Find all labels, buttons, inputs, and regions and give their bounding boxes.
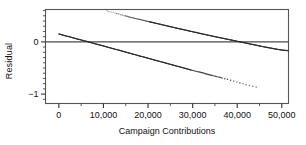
data-series — [58, 10, 289, 88]
data-point — [111, 11, 112, 12]
data-point — [116, 13, 118, 15]
data-point — [108, 11, 109, 12]
y-tick-label: −1 — [28, 89, 38, 99]
data-point — [118, 13, 120, 15]
data-point — [212, 75, 214, 77]
x-axis-title: Campaign Contributions — [45, 126, 289, 136]
x-tick-label: 50,000 — [268, 110, 296, 120]
data-point — [288, 50, 289, 51]
data-point — [109, 11, 110, 12]
x-axis-ticks — [59, 104, 282, 109]
data-point — [120, 14, 122, 16]
data-point — [249, 85, 251, 87]
x-tick-label: 10,000 — [90, 110, 118, 120]
data-point — [215, 75, 217, 77]
data-point — [216, 76, 218, 78]
y-axis-title: Residual — [2, 24, 16, 98]
data-point — [213, 75, 215, 77]
data-point — [255, 86, 257, 88]
y-axis-ticks — [41, 11, 46, 100]
plot-canvas: 0−1 010,00020,00030,00040,00050,000 — [0, 0, 306, 145]
data-point — [239, 82, 241, 84]
data-point — [221, 77, 223, 79]
data-point — [106, 10, 107, 11]
x-axis-title-text: Campaign Contributions — [119, 126, 216, 136]
data-point — [113, 12, 114, 13]
x-tick-labels: 010,00020,00030,00040,00050,000 — [56, 110, 295, 120]
data-point — [236, 81, 238, 83]
data-point — [224, 78, 226, 80]
data-point — [211, 75, 213, 77]
data-point — [220, 77, 222, 79]
data-point — [219, 76, 221, 78]
plot-frame — [46, 10, 289, 104]
data-point — [122, 14, 124, 16]
data-point — [230, 80, 232, 82]
data-point — [217, 76, 219, 78]
residual-plot-figure: Residual Campaign Contributions 0−1 010,… — [0, 0, 306, 145]
y-axis-title-text: Residual — [4, 43, 14, 80]
x-tick-label: 30,000 — [179, 110, 207, 120]
data-point — [227, 79, 229, 81]
x-tick-label: 40,000 — [223, 110, 251, 120]
x-tick-label: 0 — [56, 110, 61, 120]
data-point — [245, 84, 247, 86]
y-tick-labels: 0−1 — [28, 37, 38, 99]
data-point — [114, 12, 115, 13]
data-point — [252, 86, 254, 88]
series-upper-band — [106, 10, 288, 51]
x-tick-label: 20,000 — [134, 110, 162, 120]
y-tick-label: 0 — [33, 37, 38, 47]
data-point — [233, 80, 235, 82]
data-point — [242, 83, 244, 85]
